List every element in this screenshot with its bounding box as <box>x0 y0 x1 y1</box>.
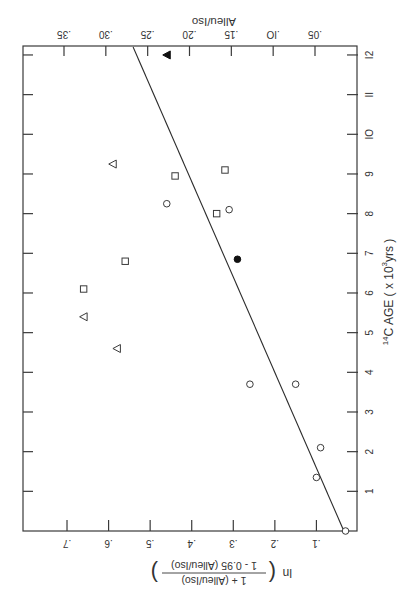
open-circle-point <box>292 381 299 388</box>
open-square-point <box>172 173 178 179</box>
top-axis-title: Alleu/Iso <box>192 16 236 28</box>
ratio-tick-label: .35 <box>57 29 71 40</box>
open-circle-point <box>226 206 233 213</box>
ratio-tick-label: .IO <box>266 29 280 40</box>
ln-tick-label: .1 <box>312 538 321 549</box>
open-triangle-point <box>113 345 121 353</box>
open-square-point <box>222 167 228 173</box>
open-triangle-point <box>109 160 117 168</box>
ln-axis-title: ln ( 1 + (Alleu/Iso) 1 - 0.95 (Alleu/Iso… <box>151 560 292 587</box>
age-title-main: C AGE ( x 10 <box>382 266 396 336</box>
regression-line <box>133 47 344 531</box>
ln-tick-label: .6 <box>104 538 113 549</box>
age-tick-label: 7 <box>364 250 375 256</box>
age-tick-label: IO <box>364 129 375 140</box>
tick-labels: 123456789IOIII2.1.2.3.4.5.6.7.05.IO.15.2… <box>57 29 375 549</box>
ln-tick-label: .2 <box>270 538 279 549</box>
left-paren: ( <box>268 561 276 586</box>
ln-denominator: 1 - 0.95 (Alleu/Iso) <box>171 560 257 572</box>
open-circle-point <box>313 474 320 481</box>
ratio-tick-label: .05 <box>308 29 322 40</box>
plot-frame <box>23 46 357 531</box>
open-square-point <box>213 210 219 216</box>
open-circle-point <box>342 528 349 535</box>
open-square-point <box>80 286 86 292</box>
age-tick-label: 2 <box>364 448 375 454</box>
ratio-tick-label: .30 <box>98 29 112 40</box>
ln-numerator: 1 + (Alleu/Iso) <box>181 575 246 587</box>
age-axis-title: 14C AGE ( x 103yrs ) <box>380 239 396 346</box>
axis-ticks <box>23 46 358 531</box>
ln-tick-label: .5 <box>146 538 155 549</box>
open-triangle-point <box>80 313 88 321</box>
age-tick-label: 3 <box>364 409 375 415</box>
age-tick-label: I2 <box>364 50 375 59</box>
age-tick-label: 1 <box>364 488 375 494</box>
right-paren: ) <box>151 561 158 586</box>
ln-tick-label: .7 <box>62 538 71 549</box>
filled-circle-point <box>234 256 241 263</box>
open-circle-point <box>247 381 254 388</box>
open-circle-point <box>317 444 324 451</box>
ratio-tick-label: .15 <box>224 29 238 40</box>
open-square-point <box>122 258 128 264</box>
age-tick-label: II <box>364 92 375 98</box>
age-tick-label: 4 <box>364 369 375 375</box>
chart: 123456789IOIII2.1.2.3.4.5.6.7.05.IO.15.2… <box>0 0 406 591</box>
data-points <box>80 51 349 534</box>
ln-label: ln <box>283 566 292 580</box>
ln-tick-label: .4 <box>187 538 196 549</box>
ratio-tick-label: .25 <box>140 29 154 40</box>
svg-text:14C AGE ( x 103yrs ): 14C AGE ( x 103yrs ) <box>380 239 396 346</box>
filled-triangle-point <box>163 51 171 59</box>
plot-border <box>23 46 357 531</box>
ln-tick-label: .3 <box>229 538 238 549</box>
ratio-tick-label: .20 <box>182 29 196 40</box>
regression-line-group <box>133 47 344 531</box>
age-tick-label: 9 <box>364 171 375 177</box>
age-title-post: yrs ) <box>382 239 396 262</box>
age-tick-label: 8 <box>364 210 375 216</box>
age-tick-label: 5 <box>364 329 375 335</box>
open-circle-point <box>163 200 170 207</box>
age-tick-label: 6 <box>364 290 375 296</box>
